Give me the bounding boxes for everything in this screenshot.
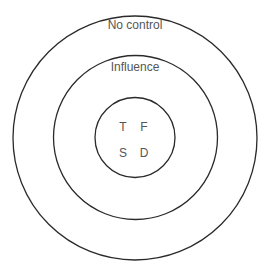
inner-letter-f: F [140,120,147,134]
inner-circle-control [95,98,175,178]
middle-ring-label: Influence [111,60,160,74]
outer-circle-no-control [13,16,257,260]
concentric-circles-diagram: No control Influence T F S D [0,0,267,276]
inner-letter-d: D [140,146,149,160]
inner-letter-t: T [119,120,127,134]
outer-ring-label: No control [108,18,163,32]
inner-letter-s: S [119,146,127,160]
middle-circle-influence [54,56,218,220]
